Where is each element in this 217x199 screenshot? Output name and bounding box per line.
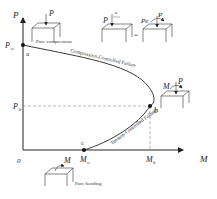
svg-text:b: b: [19, 107, 22, 112]
eccentric-right-moment: Pe: [140, 17, 148, 25]
equals-sign: =: [134, 31, 138, 39]
point-c-label: c: [81, 139, 84, 147]
balanced-load: P: [177, 77, 183, 86]
eccentricity-label: e: [115, 10, 118, 15]
inset-pure-bending: [45, 166, 73, 186]
pure-bending-caption: Pure bending: [75, 181, 102, 186]
x-axis-label: M: [199, 154, 208, 164]
label-mo: M o: [79, 155, 90, 165]
eccentric-left-load: P: [102, 16, 108, 25]
svg-text:b: b: [153, 160, 156, 165]
y-axis-label: P: [12, 10, 19, 20]
origin-label: 0: [17, 157, 21, 165]
svg-text:P: P: [4, 41, 10, 50]
point-b: [148, 104, 152, 108]
label-pb: P b: [12, 102, 22, 112]
inset-pure-compression: [32, 14, 60, 42]
svg-text:o: o: [87, 160, 90, 165]
pure-bending-moment: M: [63, 156, 72, 165]
balanced-moment: M: [162, 82, 171, 91]
svg-text:o: o: [11, 46, 14, 51]
pm-interaction-diagram: P M 0 a b c P o P b M o M b Compression-…: [0, 0, 217, 199]
compression-region-label: Compression-Controlled Failure: [70, 47, 138, 68]
label-mb: M b: [145, 155, 156, 165]
pure-compression-load: P: [48, 9, 54, 18]
tension-region-label: Tension-Controlled Failure: [109, 107, 158, 146]
label-po: P o: [4, 41, 14, 51]
pure-compression-caption: Pure compression: [36, 39, 72, 44]
point-c: [82, 148, 86, 152]
point-a-label: a: [26, 50, 30, 58]
point-a: [21, 43, 25, 47]
eccentric-right-load: P: [157, 11, 163, 19]
svg-text:P: P: [12, 102, 18, 111]
